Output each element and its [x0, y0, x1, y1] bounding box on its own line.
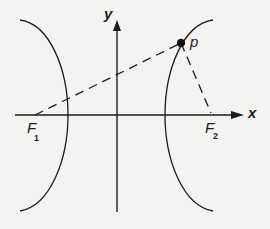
hyperbola-diagram: y x p F 1 F 2	[0, 0, 270, 229]
dashed-line-p-to-f2	[181, 43, 211, 113]
focus-2-subscript: 2	[213, 132, 218, 141]
point-p-dot	[177, 39, 185, 47]
focus-1-subscript: 1	[34, 134, 39, 143]
y-axis-arrow-icon	[113, 20, 121, 31]
y-axis-label: y	[104, 6, 112, 21]
diagram-graphics	[0, 0, 270, 229]
x-axis-label: x	[248, 105, 256, 120]
point-p-label: p	[190, 34, 198, 49]
dashed-line-f1-to-p	[35, 43, 181, 115]
x-axis-arrow-icon	[231, 111, 244, 119]
